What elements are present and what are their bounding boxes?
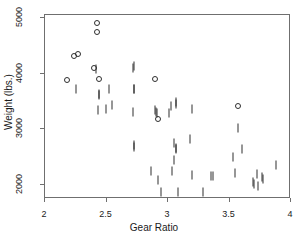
data-point-tick bbox=[238, 124, 239, 133]
x-axis-title: Gear Ratio bbox=[0, 222, 308, 233]
x-tick-label-2: 2 bbox=[24, 203, 64, 221]
data-point-tick bbox=[234, 169, 235, 178]
data-point-tick bbox=[133, 85, 134, 94]
y-tick-label-2000: 2000 bbox=[0, 179, 38, 189]
data-point-tick bbox=[99, 90, 100, 99]
y-axis-title-text: Weight (lbs.) bbox=[3, 118, 14, 130]
data-point-circle bbox=[64, 77, 70, 83]
data-point-tick bbox=[133, 143, 134, 152]
x-tick-4 bbox=[290, 198, 291, 202]
data-point-tick bbox=[169, 109, 170, 118]
data-point-tick bbox=[158, 175, 159, 184]
data-point-tick bbox=[276, 161, 277, 170]
data-point-tick bbox=[178, 188, 179, 197]
data-point-tick bbox=[151, 167, 152, 176]
x-tick-label-text: 2 bbox=[41, 209, 46, 219]
x-tick-label-2.5: 2.5 bbox=[86, 203, 126, 221]
data-point-tick bbox=[191, 171, 192, 180]
x-tick-3 bbox=[167, 198, 168, 202]
data-point-circle bbox=[152, 76, 158, 82]
y-tick-label-text: 4000 bbox=[14, 63, 24, 83]
y-tick-label-text: 5000 bbox=[14, 7, 24, 27]
data-point-tick bbox=[256, 170, 257, 179]
y-axis-title: Weight (lbs.) bbox=[2, 118, 14, 129]
y-tick-label-text: 2000 bbox=[14, 174, 24, 194]
x-axis-title-text: Gear Ratio bbox=[130, 222, 178, 233]
x-tick-label-4: 4 bbox=[270, 203, 308, 221]
x-tick-2 bbox=[44, 198, 45, 202]
data-point-tick bbox=[132, 108, 133, 117]
x-tick-label-text: 3.5 bbox=[222, 209, 235, 219]
x-tick-label-text: 2.5 bbox=[99, 209, 112, 219]
data-point-circle bbox=[155, 116, 161, 122]
data-point-tick bbox=[191, 104, 192, 113]
data-point-circle bbox=[94, 29, 100, 35]
data-point-tick bbox=[170, 102, 171, 111]
data-point-tick bbox=[212, 171, 213, 180]
data-point-tick bbox=[258, 182, 259, 191]
x-tick-label-3.5: 3.5 bbox=[209, 203, 249, 221]
data-point-circle bbox=[94, 20, 100, 26]
x-tick-label-text: 3 bbox=[164, 209, 169, 219]
data-point-tick bbox=[109, 85, 110, 94]
data-point-tick bbox=[175, 145, 176, 154]
data-point-tick bbox=[233, 153, 234, 162]
x-tick-label-text: 4 bbox=[287, 209, 292, 219]
data-point-tick bbox=[262, 175, 263, 184]
y-tick-label-5000: 5000 bbox=[0, 12, 38, 22]
scatter-plot-figure: 2000300040005000 22.533.54 Weight (lbs.)… bbox=[0, 0, 308, 247]
data-point-tick bbox=[75, 85, 76, 94]
data-point-tick bbox=[254, 180, 255, 189]
data-point-circle bbox=[96, 76, 102, 82]
data-point-tick bbox=[242, 144, 243, 153]
x-tick-2.5 bbox=[106, 198, 107, 202]
data-point-tick bbox=[111, 100, 112, 109]
data-point-circle bbox=[75, 51, 81, 57]
data-point-tick bbox=[95, 65, 96, 74]
x-tick-label-3: 3 bbox=[147, 203, 187, 221]
data-point-tick bbox=[174, 155, 175, 164]
y-tick-label-text: 3000 bbox=[14, 118, 24, 138]
data-point-tick bbox=[105, 105, 106, 114]
data-point-tick bbox=[171, 167, 172, 176]
data-point-tick bbox=[160, 188, 161, 197]
data-point-tick bbox=[98, 105, 99, 114]
data-point-tick bbox=[202, 188, 203, 197]
data-point-circle bbox=[235, 103, 241, 109]
data-point-tick bbox=[175, 100, 176, 109]
x-tick-3.5 bbox=[229, 198, 230, 202]
data-point-tick bbox=[190, 135, 191, 144]
data-point-tick bbox=[133, 61, 134, 70]
data-points-layer bbox=[44, 14, 290, 198]
